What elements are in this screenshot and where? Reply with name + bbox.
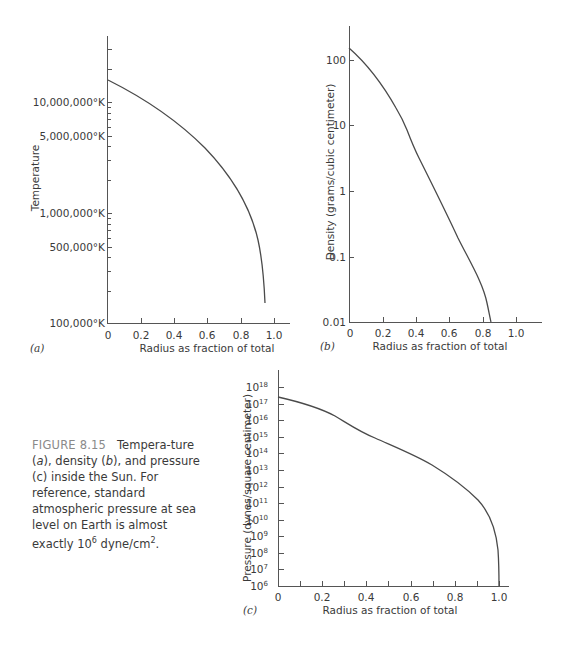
chart-b-labels: 100 10 1 0.1 0.01 0 0.2 0.4 0.6 0.8 1.0 …	[320, 54, 524, 352]
chart-density	[349, 26, 542, 323]
x-tick-label: 0	[105, 329, 112, 341]
x-tick-label: 1.0	[508, 327, 525, 339]
temperature-curve	[108, 80, 265, 303]
y-tick-label: 100	[326, 54, 346, 66]
svg-text:1018: 1018	[246, 381, 268, 393]
y-tick-label: 0.01	[323, 316, 346, 328]
x-tick-label: 0.8	[447, 591, 464, 603]
x-tick-label: 0.2	[375, 327, 392, 339]
y-tick-label: 5,000,000°K	[39, 130, 106, 142]
x-tick-label: 1.0	[266, 329, 283, 341]
x-tick-label: 0.8	[475, 327, 492, 339]
x-tick-label: 0.4	[166, 329, 183, 341]
chart-a-labels: 10,000,000°K 5,000,000°K 1,000,000°K 500…	[29, 96, 282, 354]
pressure-curve	[278, 397, 499, 586]
y-tick-label: 100,000°K	[49, 317, 106, 329]
chart-temperature	[108, 36, 291, 324]
x-tick-label: 0.4	[408, 327, 425, 339]
panel-label: (b)	[320, 340, 335, 352]
x-tick-label: 0.6	[441, 327, 458, 339]
x-tick-label: 0	[275, 591, 282, 603]
y-axis-label: Pressure (dynes/square centimeter)	[241, 394, 253, 582]
y-tick-label: 10,000,000°K	[33, 96, 106, 108]
y-tick-label: 1	[339, 185, 346, 197]
x-tick-label: 1.0	[491, 591, 508, 603]
y-axis-label: Density (grams/cubic centimeter)	[324, 84, 336, 261]
x-tick-label: 0.6	[403, 591, 420, 603]
x-tick-label: 0.2	[133, 329, 150, 341]
x-tick-label: 0.6	[199, 329, 216, 341]
x-axis-label: Radius as fraction of total	[373, 340, 508, 352]
chart-pressure	[278, 370, 509, 587]
density-curve	[349, 48, 491, 322]
panel-label: (c)	[243, 604, 257, 616]
panel-label: (a)	[30, 342, 44, 354]
x-tick-label: 0.8	[233, 329, 250, 341]
x-tick-label: 0.4	[358, 591, 375, 603]
figure-caption: FIGURE 8.15 Tempera-ture (a), density (b…	[32, 437, 202, 552]
y-tick-label: 500,000°K	[49, 241, 106, 253]
x-tick-label: 0	[347, 327, 354, 339]
figure-number: FIGURE 8.15	[32, 438, 106, 452]
y-axis-label: Temperature	[29, 145, 41, 213]
x-axis-label: Radius as fraction of total	[140, 342, 275, 354]
x-tick-label: 0.2	[314, 591, 331, 603]
x-axis-label: Radius as fraction of total	[323, 604, 458, 616]
y-tick-label: 1,000,000°K	[39, 207, 106, 219]
chart-c-labels: 1018 1017 1016 1015 1014 1013 1012 1011 …	[241, 381, 507, 616]
